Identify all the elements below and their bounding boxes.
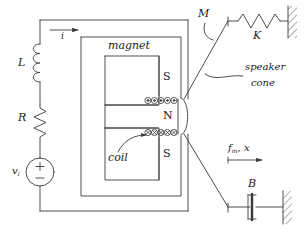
- coil-label: coil: [108, 152, 128, 163]
- magnet-label: magnet: [108, 40, 150, 51]
- pole-piece-N: [105, 105, 158, 128]
- spring-label: K: [253, 30, 261, 41]
- damper-label: B: [248, 178, 256, 189]
- damper-B: [228, 194, 283, 220]
- force-displacement-label: fm, x: [228, 143, 250, 154]
- source-label: vi: [12, 166, 20, 177]
- coil-windings-top: [145, 97, 177, 103]
- cone-leader-line: [205, 74, 243, 78]
- pole-label-bottom-s: S: [163, 148, 171, 159]
- pole-label-middle-n: N: [163, 110, 173, 121]
- force-label-tail: , x: [238, 142, 250, 153]
- force-arrow: [228, 157, 262, 163]
- current-label: i: [61, 32, 64, 41]
- coil-leader-line: [118, 135, 146, 152]
- circuit-bottom-wire: [40, 134, 188, 211]
- wall-damper: [283, 191, 292, 224]
- spring-K: [228, 14, 288, 28]
- resistor-R: [34, 104, 46, 158]
- speaker-cone-label-line2: cone: [251, 78, 275, 88]
- inductor-label: L: [18, 57, 25, 68]
- voice-coil-former: [178, 98, 188, 135]
- magnet-inner-top: [105, 56, 159, 105]
- wall-spring: [288, 6, 297, 38]
- resistor-label: R: [18, 112, 26, 123]
- mass-label: M: [198, 8, 209, 19]
- pole-label-top-s: S: [163, 71, 171, 82]
- speaker-cone-label-line1: speaker: [245, 62, 285, 72]
- mass-leader-line: [204, 23, 213, 40]
- coil-windings-bottom: [145, 129, 177, 135]
- inductor-L: [33, 44, 40, 104]
- source-label-sub: i: [18, 170, 20, 177]
- voltage-source: [26, 158, 54, 211]
- speaker-cone: [184, 21, 228, 207]
- diagram-canvas: i L R vi magnet S N S coil M K B speaker…: [0, 0, 305, 235]
